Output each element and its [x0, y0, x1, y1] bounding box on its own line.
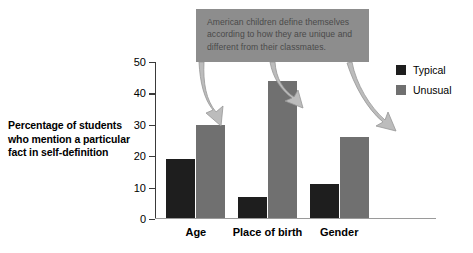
y-axis-title-line-2: who mention a particular [8, 133, 148, 147]
bar-place-of-birth-typical [238, 197, 267, 219]
legend-item-unusual[interactable]: Unusual [396, 82, 471, 98]
y-tick-label-10: 10 [134, 182, 146, 194]
legend-swatch-typical-icon [396, 65, 406, 75]
y-axis-title-line-1: Percentage of students [8, 119, 148, 133]
y-tick-label-40: 40 [134, 87, 146, 99]
chart-legend: Typical Unusual [396, 62, 471, 102]
legend-label-unusual: Unusual [413, 84, 452, 96]
y-tick-label-0: 0 [140, 213, 146, 225]
y-tick-label-20: 20 [134, 150, 146, 162]
bar-age-unusual [196, 125, 225, 219]
bar-gender-unusual [340, 137, 369, 219]
y-tick-mark-40 [149, 93, 155, 94]
x-axis-label-age: Age [185, 226, 206, 238]
chart-root: Percentage of students who mention a par… [0, 0, 473, 253]
x-axis-label-place-of-birth: Place of birth [233, 226, 303, 238]
y-axis-line [155, 62, 156, 219]
bar-age-typical [166, 159, 195, 219]
y-tick-label-30: 30 [134, 119, 146, 131]
y-tick-mark-20 [149, 156, 155, 157]
plot-area: 01020304050 [155, 62, 370, 219]
y-axis-title-line-3: fact in self-definition [8, 146, 148, 160]
x-axis-label-gender: Gender [320, 226, 359, 238]
y-tick-mark-50 [149, 62, 155, 63]
y-tick-mark-10 [149, 188, 155, 189]
legend-label-typical: Typical [413, 64, 446, 76]
callout-text: American children define themselves acco… [207, 16, 360, 53]
legend-swatch-unusual-icon [396, 85, 406, 95]
y-tick-mark-30 [149, 125, 155, 126]
bar-gender-typical [310, 184, 339, 219]
y-tick-label-50: 50 [134, 56, 146, 68]
x-axis-baseline-extension [155, 218, 436, 219]
bar-place-of-birth-unusual [268, 81, 297, 219]
legend-item-typical[interactable]: Typical [396, 62, 471, 78]
y-axis-title: Percentage of students who mention a par… [8, 119, 148, 160]
callout-box: American children define themselves acco… [196, 9, 369, 62]
